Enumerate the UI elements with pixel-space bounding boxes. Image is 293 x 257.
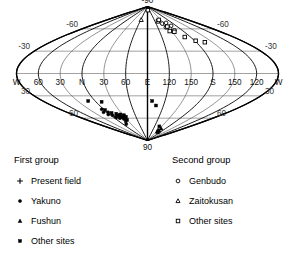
data-point-3-3 [110,112,113,115]
latitude-label-neg60-R: -60 [217,20,229,29]
legend-left-marker-0 [17,178,23,184]
legend-layer: First groupPresent fieldYakunoFushunOthe… [14,154,233,246]
grid-layer [17,7,279,141]
data-point-3-9 [124,115,127,118]
latitude-label-pos60-L: 60 [69,109,79,118]
longitude-tick-label-10: 150 [228,78,242,87]
data-point-6-0 [146,8,149,11]
data-point-6-8 [173,30,176,33]
latitude-label-neg60-L: -60 [66,20,78,29]
data-point-6-3 [166,25,169,28]
data-point-3-12 [155,104,158,107]
legend-left-marker-3 [19,240,22,243]
longitude-tick-label-11: 120 [250,78,264,87]
longitude-tick-label-7: 120 [162,78,176,87]
data-point-3-2 [104,109,107,112]
legend-right: Second groupGenbudoZaitokusanOther sites [172,154,233,226]
legend-left-label-1: Yakuno [31,196,61,206]
longitude-tick-label-4: 30 [99,78,109,87]
data-point-1-13 [100,108,103,111]
latitude-label-pos30-R: 30 [265,87,275,96]
sinusoidal-projection-plot: W6030N3060E120150S150120W-30-30-60-60303… [0,0,293,257]
longitude-tick-label-3: N [79,78,85,87]
legend-left: First groupPresent fieldYakunoFushunOthe… [14,154,81,246]
pole-label-top: -90 [142,0,154,5]
data-point-6-6 [194,39,197,42]
data-point-1-2 [107,111,110,114]
longitude-tick-label-5: 60 [121,78,131,87]
latitude-label-pos30-L: 30 [21,87,31,96]
longitude-tick-label-8: 150 [184,78,198,87]
data-point-6-4 [168,29,171,32]
legend-right-marker-1 [176,199,180,203]
legend-left-title: First group [14,154,59,165]
latitude-label-neg30-L: -30 [18,42,30,51]
longitude-tick-label-12: W [275,78,283,87]
legend-right-label-0: Genbudo [189,176,226,186]
data-point-6-5 [183,35,186,38]
data-point-3-4 [115,112,118,115]
data-point-1-12 [125,123,128,126]
legend-right-marker-2 [176,219,179,222]
longitude-tick-label-6: E [145,78,151,87]
data-point-6-2 [157,18,160,21]
legend-left-label-0: Present field [31,176,81,186]
longitude-tick-label-9: S [210,78,216,87]
data-point-3-14 [126,118,129,121]
legend-right-label-1: Zaitokusan [189,196,233,206]
data-point-6-7 [203,40,206,43]
data-point-3-13 [158,125,161,128]
data-point-3-0 [87,100,90,103]
latitude-label-neg30-R: -30 [265,42,277,51]
latitude-label-pos60-R: 60 [217,109,227,118]
longitude-tick-label-2: 30 [56,78,66,87]
data-point-3-11 [151,100,154,103]
legend-right-label-2: Other sites [189,216,233,226]
data-point-3-6 [119,113,122,116]
series-second-group-zaitokusan [139,18,143,22]
data-point-5-0 [139,18,143,22]
data-point-4-2 [164,21,168,25]
legend-left-marker-2 [18,219,22,223]
legend-right-marker-0 [176,179,180,183]
longitude-tick-label-0: W [13,78,21,87]
legend-left-label-2: Fushun [31,216,61,226]
pole-label-bottom: 90 [143,143,153,152]
legend-left-marker-1 [18,199,21,202]
data-point-3-1 [100,100,103,103]
vgp-projection-figure: W6030N3060E120150S150120W-30-30-60-60303… [0,0,293,257]
longitude-tick-label-1: 60 [34,78,44,87]
legend-right-title: Second group [172,154,230,165]
legend-left-label-3: Other sites [31,236,75,246]
